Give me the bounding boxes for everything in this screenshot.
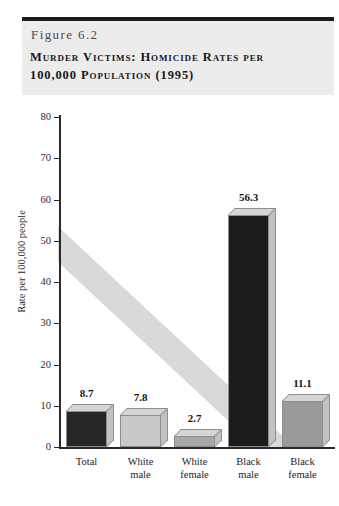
bar-white-male: 7.8: [120, 415, 161, 447]
bar-total: 8.7: [66, 411, 107, 447]
y-tick-label: 70: [20, 152, 51, 164]
bar-top-face: [282, 394, 330, 401]
bar-value-label: 8.7: [80, 387, 94, 399]
y-tick-mark: [54, 447, 60, 448]
bar-top-face: [228, 208, 276, 215]
y-tick-label: 10: [20, 400, 51, 412]
bar-front-face: [282, 401, 323, 447]
bar-front-face: [228, 215, 269, 447]
y-tick-mark: [54, 117, 60, 118]
y-tick-mark: [54, 200, 60, 201]
bar-value-label: 2.7: [188, 412, 202, 424]
x-axis-line: [59, 447, 335, 449]
bar-black-male: 56.3: [228, 215, 269, 447]
category-label-black-female: Blackfemale: [276, 455, 329, 481]
bar-side-face: [323, 394, 330, 447]
bar-top-face: [120, 408, 168, 415]
y-tick-mark: [54, 406, 60, 407]
bar-value-label: 56.3: [239, 191, 258, 203]
y-tick-mark: [54, 282, 60, 283]
bar-value-label: 11.1: [293, 377, 312, 389]
y-tick-label: 80: [20, 111, 51, 123]
y-tick-label: 20: [20, 359, 51, 371]
bar-front-face: [66, 411, 107, 447]
y-tick-label: 0: [20, 441, 51, 453]
bar-white-female: 2.7: [174, 436, 215, 447]
bar-side-face: [269, 208, 276, 447]
bar-top-face: [66, 404, 114, 411]
bar-side-face: [107, 404, 114, 447]
y-tick-mark: [54, 323, 60, 324]
y-tick-mark: [54, 158, 60, 159]
category-label-total: Total: [60, 455, 113, 468]
bar-front-face: [174, 436, 215, 447]
figure-root: Figure 6.2 Murder Victims: Homicide Rate…: [0, 0, 339, 506]
y-tick-mark: [54, 365, 60, 366]
bar-front-face: [120, 415, 161, 447]
bar-top-face: [174, 429, 222, 436]
bar-black-female: 11.1: [282, 401, 323, 447]
chart-plot-area: 01020304050607080 Rate per 100,000 peopl…: [0, 0, 339, 506]
y-axis-label: Rate per 100,000 people: [16, 177, 27, 347]
y-tick-mark: [54, 241, 60, 242]
category-label-white-male: Whitemale: [114, 455, 167, 481]
category-label-white-female: Whitefemale: [168, 455, 221, 481]
category-label-black-male: Blackmale: [222, 455, 275, 481]
bar-value-label: 7.8: [134, 391, 148, 403]
